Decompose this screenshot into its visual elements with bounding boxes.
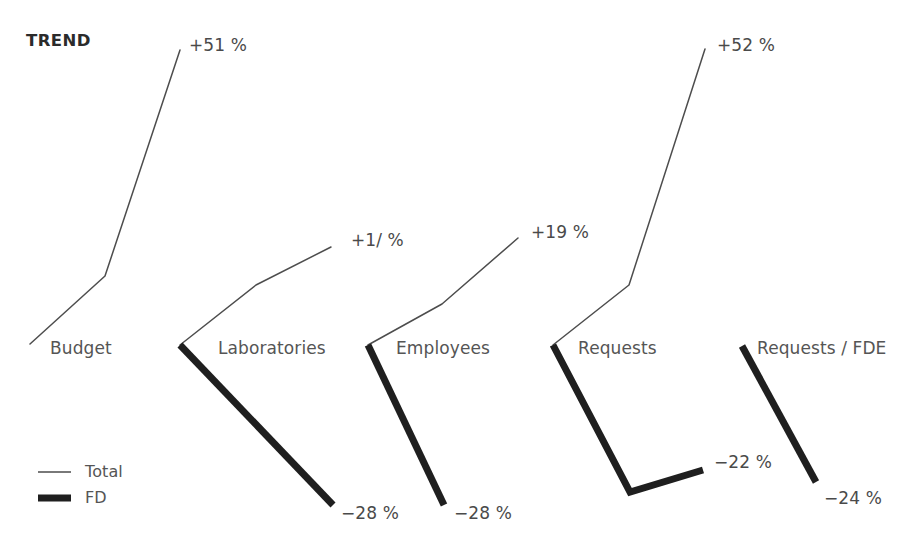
chart-title: TREND — [26, 33, 91, 50]
fd-line-employees — [368, 345, 444, 505]
value-label-total-employees: +19 % — [531, 224, 589, 241]
value-label-fd-requests: −22 % — [714, 454, 772, 471]
fd-line-requests — [553, 345, 703, 492]
total-line-laboratories — [180, 247, 331, 345]
value-label-fd-employees: −28 % — [454, 505, 512, 522]
category-label-requests-fde: Requests / FDE — [757, 340, 886, 357]
total-line-requests — [553, 49, 705, 345]
legend-label-fd: FD — [85, 490, 107, 506]
category-label-budget: Budget — [50, 340, 112, 357]
category-label-employees: Employees — [396, 340, 490, 357]
value-label-total-budget: +51 % — [189, 37, 247, 54]
value-label-total-laboratories: +1/ % — [351, 232, 404, 249]
trend-chart: TREND +51 % +1/ % +19 % +52 % −28 % −28 … — [0, 0, 906, 552]
value-label-fd-laboratories: −28 % — [341, 505, 399, 522]
category-label-laboratories: Laboratories — [218, 340, 326, 357]
fd-line-laboratories — [180, 345, 333, 505]
total-line-employees — [368, 238, 518, 345]
value-label-fd-requests-fde: −24 % — [824, 490, 882, 507]
legend-label-total: Total — [85, 464, 123, 480]
value-label-total-requests: +52 % — [717, 37, 775, 54]
category-label-requests: Requests — [578, 340, 657, 357]
total-line-budget — [30, 50, 180, 344]
